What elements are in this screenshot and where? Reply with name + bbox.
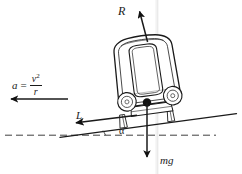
track-surface-line: [60, 114, 237, 138]
force-diagram: [0, 0, 242, 174]
figure-canvas: R mg L α a = v2 r: [0, 0, 242, 174]
lateral-force-vector: [76, 115, 137, 123]
wheel-right-hub: [170, 93, 174, 97]
wheel-left-hub: [125, 100, 129, 104]
